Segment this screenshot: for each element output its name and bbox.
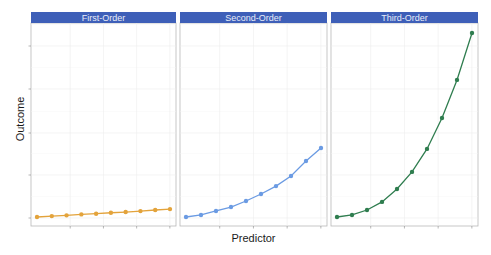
data-point xyxy=(229,205,233,209)
data-point xyxy=(138,209,142,213)
data-point xyxy=(470,31,474,35)
data-point xyxy=(455,78,459,82)
data-point xyxy=(410,170,414,174)
facet-title: First-Order xyxy=(82,13,126,23)
data-point xyxy=(380,200,384,204)
data-point xyxy=(319,146,323,150)
data-point xyxy=(214,209,218,213)
data-point xyxy=(50,214,54,218)
data-point xyxy=(440,116,444,120)
data-point xyxy=(199,213,203,217)
data-point xyxy=(109,211,113,215)
data-point xyxy=(259,192,263,196)
data-point xyxy=(304,159,308,163)
data-point xyxy=(184,215,188,219)
faceted-line-chart: First-OrderSecond-OrderThird-Order xyxy=(0,0,491,255)
data-point xyxy=(335,215,339,219)
y-axis-label: Outcome xyxy=(14,86,26,152)
data-point xyxy=(35,215,39,219)
data-point xyxy=(123,210,127,214)
data-point xyxy=(168,207,172,211)
data-point xyxy=(395,187,399,191)
data-point xyxy=(64,213,68,217)
data-point xyxy=(365,208,369,212)
panel-1: First-Order xyxy=(29,12,177,229)
data-point xyxy=(350,213,354,217)
panel-2: Second-Order xyxy=(180,12,327,229)
data-point xyxy=(79,212,83,216)
data-point xyxy=(274,184,278,188)
facet-title: Third-Order xyxy=(381,13,428,23)
panel-3: Third-Order xyxy=(331,12,478,229)
facet-title: Second-Order xyxy=(225,13,282,23)
data-point xyxy=(244,199,248,203)
data-point xyxy=(153,208,157,212)
x-axis-label: Predictor xyxy=(0,232,491,244)
data-point xyxy=(289,174,293,178)
data-point xyxy=(94,211,98,215)
data-point xyxy=(425,147,429,151)
